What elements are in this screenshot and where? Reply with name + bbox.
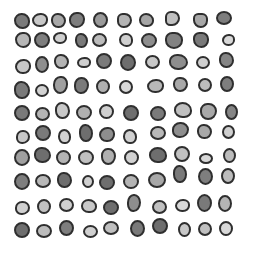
blob-cell — [51, 13, 66, 28]
blob-cell — [14, 173, 30, 190]
blob-cell — [149, 147, 167, 163]
blob-cell — [178, 222, 191, 237]
blob-cell — [222, 125, 235, 139]
blob-cell — [198, 168, 213, 185]
blob-cell — [36, 224, 52, 238]
blob-cell — [173, 165, 187, 183]
blob-cell — [124, 150, 139, 165]
blob-grid-canvas — [0, 0, 253, 256]
blob-cell — [74, 77, 89, 94]
blob-cell — [148, 172, 166, 188]
blob-cell — [219, 221, 233, 236]
blob-cell — [174, 102, 192, 118]
blob-cell — [99, 127, 115, 142]
blob-cell — [76, 105, 92, 120]
blob-cell — [198, 78, 212, 92]
blob-cell — [14, 149, 30, 166]
blob-cell — [58, 129, 71, 144]
blob-cell — [197, 124, 212, 139]
blob-cell — [193, 13, 208, 28]
blob-cell — [218, 195, 232, 212]
blob-cell — [225, 104, 238, 120]
blob-cell — [57, 172, 72, 188]
blob-cell — [96, 79, 110, 94]
blob-cell — [172, 122, 189, 138]
blob-cell — [174, 146, 190, 162]
blob-cell — [14, 222, 30, 238]
blob-cell — [145, 55, 160, 69]
blob-cell — [99, 104, 114, 119]
blob-cell — [35, 125, 51, 141]
blob-cell — [55, 102, 70, 119]
blob-cell — [35, 84, 49, 97]
blob-cell — [221, 168, 235, 184]
blob-cell — [14, 13, 30, 29]
blob-cell — [173, 77, 188, 92]
blob-cell — [14, 105, 30, 121]
blob-cell — [69, 12, 85, 28]
blob-cell — [169, 54, 188, 70]
blob-cell — [123, 105, 139, 121]
blob-cell — [123, 174, 139, 189]
blob-cell — [53, 32, 67, 44]
blob-cell — [220, 76, 234, 92]
blob-cell — [101, 148, 116, 165]
blob-cell — [37, 199, 51, 214]
blob-cell — [152, 200, 167, 214]
blob-cell — [56, 150, 71, 165]
blob-cell — [79, 124, 93, 142]
blob-cell — [175, 199, 190, 212]
blob-cell — [117, 13, 132, 28]
blob-cell — [34, 32, 50, 48]
blob-cell — [165, 11, 180, 26]
blob-cell — [35, 56, 49, 73]
blob-cell — [165, 32, 183, 49]
blob-cell — [152, 218, 168, 234]
blob-cell — [198, 222, 212, 236]
blob-cell — [35, 174, 51, 188]
blob-cell — [103, 200, 119, 215]
blob-cell — [139, 13, 154, 27]
blob-cell — [123, 129, 137, 144]
blob-cell — [81, 199, 97, 213]
blob-cell — [75, 33, 88, 48]
blob-cell — [16, 130, 30, 144]
blob-cell — [53, 76, 68, 94]
blob-cell — [93, 12, 108, 28]
blob-cell — [147, 79, 164, 93]
blob-cell — [119, 33, 133, 47]
blob-cell — [223, 148, 236, 163]
blob-cell — [199, 153, 213, 164]
blob-cell — [222, 34, 235, 46]
blob-cell — [120, 54, 136, 71]
blob-cell — [219, 52, 234, 68]
blob-cell — [77, 57, 91, 68]
blob-cell — [130, 220, 145, 237]
blob-cell — [193, 32, 209, 48]
blob-cell — [34, 147, 51, 163]
blob-cell — [14, 81, 30, 99]
blob-cell — [32, 13, 48, 27]
blob-cell — [200, 103, 217, 120]
blob-cell — [92, 33, 107, 47]
blob-cell — [197, 194, 212, 212]
blob-cell — [15, 59, 31, 74]
blob-cell — [196, 56, 210, 69]
blob-cell — [127, 194, 141, 212]
blob-cell — [141, 33, 157, 48]
blob-cell — [216, 11, 232, 25]
blob-cell — [99, 175, 115, 190]
blob-cell — [103, 221, 119, 235]
blob-cell — [35, 107, 50, 121]
blob-cell — [96, 53, 112, 69]
blob-cell — [15, 32, 31, 48]
blob-cell — [82, 175, 94, 188]
blob-cell — [59, 198, 74, 212]
blob-cell — [78, 150, 94, 165]
blob-cell — [54, 54, 69, 69]
blob-cell — [150, 126, 166, 140]
blob-cell — [150, 106, 166, 121]
blob-cell — [15, 201, 30, 215]
blob-cell — [83, 225, 98, 238]
blob-cell — [59, 220, 74, 236]
